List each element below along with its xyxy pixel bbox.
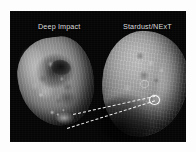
impact-site-highlight-left — [56, 112, 74, 124]
photo-panel: Deep Impact Stardust/NExT — [10, 11, 186, 142]
secondary-crater-ring-icon — [140, 80, 149, 88]
caption-stardust-next: Stardust/NExT — [123, 22, 172, 31]
caption-deep-impact: Deep Impact — [38, 22, 80, 31]
comet-comparison-figure: Deep Impact Stardust/NExT — [0, 0, 196, 152]
